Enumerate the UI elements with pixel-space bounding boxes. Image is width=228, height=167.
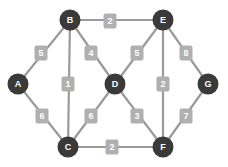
graph-node-a[interactable]: A — [8, 74, 29, 95]
edge-weight-a-b: 5 — [35, 46, 48, 61]
edge-weight-b-d: 4 — [85, 46, 98, 61]
graph-node-g[interactable]: G — [198, 74, 219, 95]
edge-weight-e-f: 2 — [157, 77, 170, 92]
graph-node-b[interactable]: B — [60, 10, 81, 31]
graph-node-d[interactable]: D — [105, 74, 126, 95]
graph-diagram: 562146253287 ABCDEFG — [0, 0, 228, 167]
edge-weight-e-g: 8 — [180, 46, 193, 61]
edge-weight-b-c: 1 — [62, 77, 75, 92]
edge-weight-c-f: 2 — [106, 140, 119, 155]
edge-weight-d-f: 3 — [131, 109, 144, 124]
edge-weight-c-d: 6 — [85, 109, 98, 124]
graph-node-f[interactable]: F — [153, 137, 174, 158]
graph-node-c[interactable]: C — [58, 137, 79, 158]
edge-weight-d-e: 5 — [131, 46, 144, 61]
edge-weight-f-g: 7 — [180, 109, 193, 124]
graph-node-e[interactable]: E — [153, 10, 174, 31]
edge-weight-b-e: 2 — [104, 14, 117, 29]
edge-weight-a-c: 6 — [36, 109, 49, 124]
